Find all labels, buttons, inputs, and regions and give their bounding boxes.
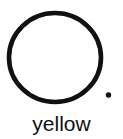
figure-root: yellow <box>0 0 123 139</box>
period-dot <box>106 92 111 97</box>
caption-label: yellow <box>0 112 123 136</box>
